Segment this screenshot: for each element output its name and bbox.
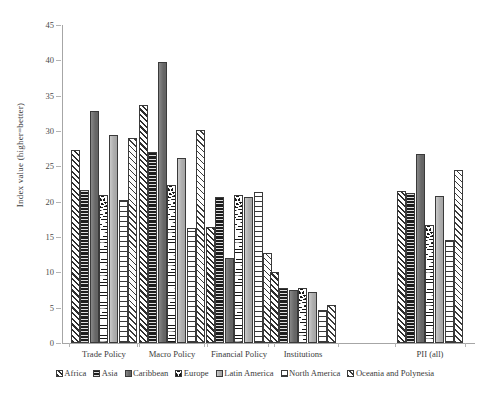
- y-axis-tick-mark: [56, 96, 61, 97]
- bar: [215, 197, 224, 343]
- y-axis-tick-mark: [56, 25, 61, 26]
- y-axis-tick-mark: [56, 166, 61, 167]
- x-axis-tick-mark: [274, 343, 275, 347]
- bar: [254, 192, 263, 343]
- y-axis-tick-mark: [56, 272, 61, 273]
- y-axis-tick-mark: [56, 60, 61, 61]
- y-axis-label: Index value (higher=better): [15, 45, 25, 265]
- legend-item[interactable]: Africa: [56, 368, 86, 378]
- bar: [99, 195, 108, 343]
- y-axis-tick-label: 45: [8, 21, 54, 30]
- x-axis-tick-mark: [69, 343, 70, 347]
- bar: [445, 240, 454, 343]
- bar: [279, 288, 288, 343]
- bar: [397, 191, 406, 343]
- bar: [196, 130, 205, 343]
- legend-swatch-icon: [347, 370, 354, 377]
- legend-label: Asia: [102, 368, 118, 378]
- bar: [425, 225, 434, 343]
- bar: [187, 228, 196, 343]
- x-axis-tick-mark: [207, 343, 208, 347]
- bar: [158, 62, 167, 343]
- bar: [90, 111, 99, 343]
- bar: [109, 135, 118, 343]
- x-axis-tick-mark: [268, 343, 269, 347]
- legend-label: Latin America: [224, 368, 273, 378]
- legend-swatch-icon: [125, 370, 132, 377]
- y-axis-tick-mark: [56, 237, 61, 238]
- legend-swatch-icon: [281, 370, 288, 377]
- bar: [270, 272, 279, 343]
- y-axis-tick-mark: [56, 202, 61, 203]
- bar: [177, 158, 186, 343]
- legend-label: Caribbean: [133, 368, 168, 378]
- bar: [167, 185, 176, 343]
- bar-group: [206, 25, 273, 343]
- bar: [71, 150, 80, 343]
- x-axis-tick-label: Institutions: [243, 349, 363, 359]
- legend-swatch-icon: [93, 370, 100, 377]
- legend-swatch-icon: [216, 370, 223, 377]
- legend-label: Europe: [184, 368, 209, 378]
- y-axis-tick-label: 10: [8, 268, 54, 277]
- bar: [308, 292, 317, 343]
- x-axis-tick-label: PII (all): [370, 349, 490, 359]
- bar-group: [139, 25, 206, 343]
- bar: [406, 193, 415, 343]
- x-axis-tick-mark: [395, 343, 396, 347]
- bar: [80, 190, 89, 343]
- legend-item[interactable]: Europe: [175, 368, 208, 378]
- bar-group: [397, 25, 464, 343]
- bar: [289, 290, 298, 343]
- legend-label: North America: [289, 368, 340, 378]
- legend-label: Oceania and Polynesia: [356, 368, 434, 378]
- bar: [148, 152, 157, 343]
- bar: [327, 305, 336, 343]
- bar: [119, 200, 128, 343]
- bar: [128, 138, 137, 343]
- legend-label: Africa: [64, 368, 86, 378]
- bar: [225, 258, 234, 343]
- x-axis-tick-mark: [204, 343, 205, 347]
- legend-item[interactable]: Asia: [93, 368, 117, 378]
- bar: [244, 197, 253, 343]
- x-axis-tick-mark: [338, 343, 339, 347]
- chart-legend: AfricaAsiaCaribbeanEuropeLatin AmericaNo…: [0, 368, 490, 378]
- legend-swatch-icon: [56, 370, 63, 377]
- bar: [454, 170, 463, 343]
- x-axis-tick-mark: [137, 343, 138, 347]
- legend-swatch-icon: [175, 370, 182, 377]
- legend-item[interactable]: Latin America: [216, 368, 274, 378]
- bar: [416, 154, 425, 343]
- bar: [234, 195, 243, 343]
- legend-item[interactable]: North America: [281, 368, 341, 378]
- y-axis-tick-label: 5: [8, 304, 54, 313]
- x-axis-tick-mark: [139, 343, 140, 347]
- y-axis-tick-mark: [56, 343, 61, 344]
- bar: [206, 227, 215, 343]
- bar: [139, 105, 148, 343]
- y-axis-tick-label: 0: [8, 339, 54, 348]
- y-axis-line: [62, 25, 63, 344]
- x-axis-tick-mark: [465, 343, 466, 347]
- bar: [298, 288, 307, 343]
- legend-item[interactable]: Caribbean: [125, 368, 169, 378]
- bar-group: [270, 25, 337, 343]
- y-axis-tick-mark: [56, 131, 61, 132]
- bar-group: [71, 25, 138, 343]
- legend-item[interactable]: Oceania and Polynesia: [347, 368, 434, 378]
- chart-figure: 051015202530354045 Index value (higher=b…: [0, 0, 490, 393]
- bar: [318, 310, 327, 343]
- bar: [435, 196, 444, 343]
- y-axis-tick-mark: [56, 308, 61, 309]
